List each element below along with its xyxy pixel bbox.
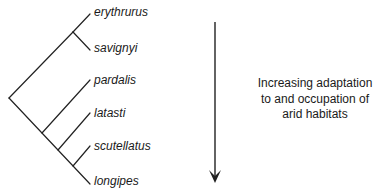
caption-line-3: arid habitats bbox=[250, 107, 380, 123]
taxon-label-scutellatus: scutellatus bbox=[94, 139, 151, 153]
branch-latasti bbox=[58, 113, 90, 150]
branch-root-to-longipes bbox=[9, 98, 90, 184]
caption-line-1: Increasing adaptation bbox=[250, 76, 380, 92]
taxon-label-latasti: latasti bbox=[94, 106, 125, 120]
branch-scutellatus bbox=[73, 146, 90, 166]
taxon-label-longipes: longipes bbox=[94, 174, 139, 188]
arrow-down-icon bbox=[209, 22, 221, 183]
caption-line-2: to and occupation of bbox=[250, 92, 380, 108]
branch-savignyi bbox=[73, 32, 90, 50]
taxon-label-savignyi: savignyi bbox=[94, 41, 137, 55]
branch-pardalis bbox=[42, 80, 90, 133]
arrow-caption: Increasing adaptation to and occupation … bbox=[250, 76, 380, 123]
taxon-label-pardalis: pardalis bbox=[94, 73, 136, 87]
taxon-label-erythrurus: erythrurus bbox=[94, 5, 148, 19]
branch-root-to-clade-a bbox=[9, 32, 73, 98]
branch-erythrurus bbox=[73, 14, 90, 32]
